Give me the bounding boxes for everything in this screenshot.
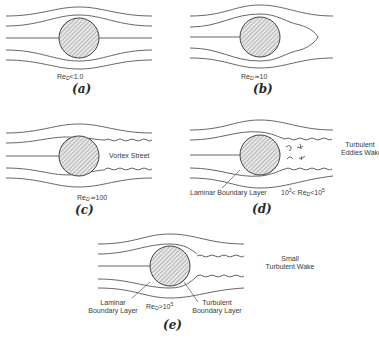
re-subscript: D	[86, 196, 90, 202]
turbulent-boundary-layer-label-e: Turbulent Boundary Layer	[190, 299, 244, 315]
re-subscript: D	[155, 305, 159, 311]
re-prefix: Re	[77, 194, 86, 201]
eddies-wake-text: Eddies Wake	[341, 149, 379, 157]
panel-d-drawing	[190, 120, 333, 188]
cylinder-flow-figure: ReD<1.0 (a) ReD≃10 (b) Vortex Street ReD…	[0, 0, 379, 339]
small-text: Small	[262, 255, 318, 263]
turbulent-text: Turbulent	[341, 141, 379, 149]
laminar-boundary-layer-label-e: Laminar Boundary Layer	[88, 299, 138, 315]
panel-b-label: (b)	[253, 82, 273, 96]
re-upper-exponent: 5	[322, 187, 325, 193]
panel-c-label: (c)	[75, 203, 94, 217]
re-lower: 10	[281, 189, 289, 196]
panel-e-label: (e)	[163, 318, 182, 332]
panel-c-reynolds-label: ReD≃100	[77, 194, 107, 202]
re-exponent: 5	[170, 301, 173, 307]
re-mid: < Re	[292, 189, 307, 196]
re-lower-exponent: 3	[289, 187, 292, 193]
flow-diagram-drawing	[0, 0, 379, 339]
panel-a-reynolds-label: ReD<1.0	[57, 73, 83, 81]
re-subscript: D	[307, 191, 311, 197]
re-prefix: Re	[241, 73, 250, 80]
panel-b-drawing	[190, 5, 333, 68]
vortex-street-label: Vortex Street	[109, 152, 149, 160]
re-prefix: Re	[57, 73, 66, 80]
panel-d-reynolds-label: 103< ReD<105	[281, 189, 325, 197]
re-upper: <10	[310, 189, 322, 196]
panel-d-label: (d)	[252, 202, 272, 216]
laminar-boundary-layer-label: Laminar Boundary Layer	[190, 189, 267, 197]
boundary-layer-text: Boundary Layer	[190, 307, 244, 315]
panel-a-drawing	[6, 7, 152, 69]
boundary-layer-text: Boundary Layer	[88, 307, 138, 315]
panel-e-drawing	[98, 234, 244, 302]
turbulent-text: Turbulent	[190, 299, 244, 307]
re-subscript: D	[250, 75, 254, 81]
re-prefix: Re	[146, 303, 155, 310]
small-turbulent-wake-label: Small Turbulent Wake	[262, 255, 318, 271]
turbulent-wake-text: Turbulent Wake	[262, 263, 318, 271]
panel-e-reynolds-label: ReD>105	[146, 303, 173, 311]
panel-b-reynolds-label: ReD≃10	[241, 73, 267, 81]
re-relation: <1.0	[70, 73, 84, 80]
laminar-text: Laminar	[88, 299, 138, 307]
turbulent-eddies-wake-label: Turbulent Eddies Wake	[341, 141, 379, 157]
re-subscript: D	[66, 75, 70, 81]
re-relation: ≃10	[254, 73, 268, 80]
re-relation: >10	[159, 303, 171, 310]
panel-a-label: (a)	[72, 82, 91, 96]
re-relation: ≃100	[90, 194, 108, 201]
